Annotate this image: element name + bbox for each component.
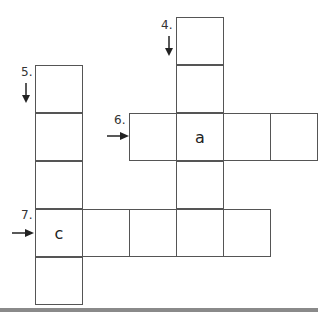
clue-number-5: 5. (21, 65, 32, 79)
cell-4-1[interactable] (176, 17, 224, 65)
cell-5-1[interactable] (35, 65, 83, 113)
cell-6-1[interactable] (129, 113, 177, 161)
cell-7-3[interactable] (129, 209, 177, 257)
cell-5-3[interactable] (35, 161, 83, 209)
cell-4-2[interactable] (176, 65, 224, 113)
cell-7-1[interactable]: c (35, 209, 83, 257)
cell-5-5[interactable] (35, 257, 83, 305)
cell-4-4[interactable] (176, 161, 224, 209)
clue-number-7: 7. (21, 208, 32, 222)
clue-number-4: 4. (161, 18, 172, 32)
cell-6-3[interactable] (223, 113, 271, 161)
arrow-down-icon (164, 36, 174, 56)
arrow-right-icon (12, 228, 34, 238)
arrow-down-icon (21, 83, 31, 103)
cell-7-4[interactable] (176, 209, 224, 257)
bottom-divider (0, 308, 318, 312)
cell-7-5[interactable] (223, 209, 271, 257)
clue-number-6: 6. (114, 113, 125, 127)
arrow-right-icon (107, 131, 129, 141)
cell-5-2[interactable] (35, 113, 83, 161)
cell-7-2[interactable] (82, 209, 130, 257)
cell-6-2[interactable]: a (176, 113, 224, 161)
cell-6-4[interactable] (270, 113, 318, 161)
